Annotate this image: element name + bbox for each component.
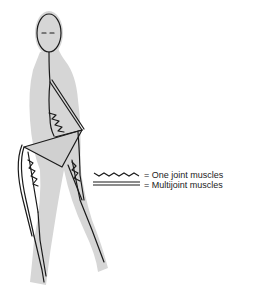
double-line-icon	[93, 182, 140, 185]
diagram: = One joint muscles = Multijoint muscles	[0, 0, 255, 293]
legend-one-joint: = One joint muscles	[144, 170, 223, 180]
walking-figure	[0, 0, 255, 293]
legend-multijoint: = Multijoint muscles	[144, 180, 223, 190]
wavy-line-icon	[94, 173, 139, 176]
